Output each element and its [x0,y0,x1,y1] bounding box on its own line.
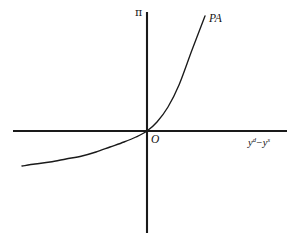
chart-canvas [0,0,299,244]
x-axis-label-minus: − [256,137,263,148]
curve-label-pa: PA [209,13,222,25]
phillips-curve-path [22,16,205,166]
origin-label: O [151,134,159,146]
x-axis-label: yd−ys [248,138,270,149]
y-axis-label: π [135,7,142,18]
figure-container: π PA O yd−ys [0,0,299,244]
x-axis-label-superscript-supply: s [268,136,271,143]
